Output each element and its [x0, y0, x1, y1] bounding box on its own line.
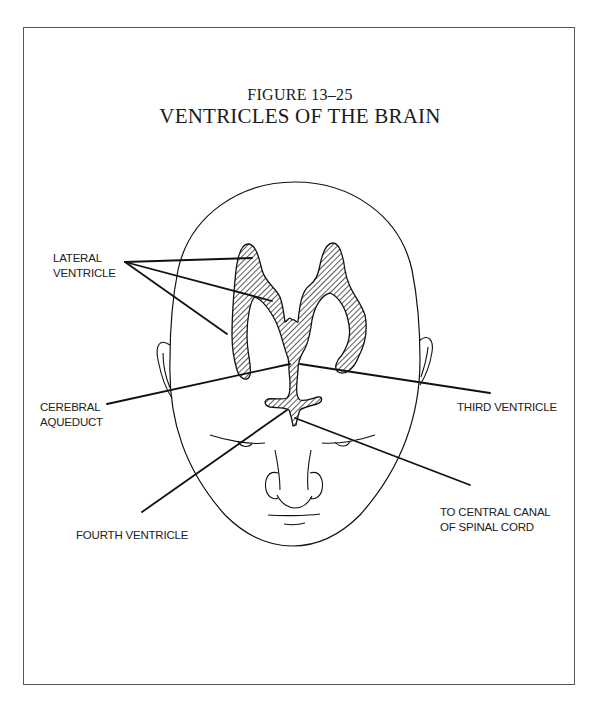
label-lateral-ventricle: LATERAL VENTRICLE — [53, 251, 116, 281]
label-cerebral-aqueduct: CEREBRAL AQUEDUCT — [40, 400, 103, 430]
label-fourth-ventricle: FOURTH VENTRICLE — [76, 528, 188, 543]
label-line: OF SPINAL CORD — [440, 520, 551, 535]
leader-cerebral-aqueduct — [107, 364, 290, 404]
label-third-ventricle: THIRD VENTRICLE — [457, 400, 557, 415]
right-ear-icon — [419, 338, 432, 385]
face-features — [210, 435, 375, 525]
label-line: VENTRICLE — [53, 266, 116, 281]
leader-third-ventricle — [300, 364, 490, 393]
label-line: CEREBRAL — [40, 400, 103, 415]
label-line: AQUEDUCT — [40, 415, 103, 430]
label-line: FOURTH VENTRICLE — [76, 528, 188, 543]
label-line: LATERAL — [53, 251, 116, 266]
ventricle-system — [232, 243, 366, 426]
leader-lateral-3 — [125, 262, 227, 334]
label-line: THIRD VENTRICLE — [457, 400, 557, 415]
leader-central-canal — [295, 418, 470, 485]
leader-lines — [107, 258, 490, 512]
label-line: TO CENTRAL CANAL — [440, 505, 551, 520]
brain-ventricles-diagram — [0, 0, 600, 705]
leader-fourth-ventricle — [142, 410, 287, 512]
lateral-ventricles-shape — [232, 243, 366, 426]
leader-lateral-1 — [125, 258, 252, 262]
label-central-canal: TO CENTRAL CANAL OF SPINAL CORD — [440, 505, 551, 535]
